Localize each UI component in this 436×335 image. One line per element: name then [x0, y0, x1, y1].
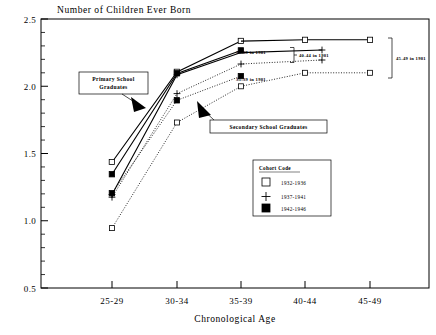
legend-label-1942-1946: 1942-1946: [281, 206, 306, 212]
annotation-45-49-in-1981: 45-49 in 1981: [396, 56, 426, 61]
series-secondary-1932-1936: [109, 70, 372, 230]
x-axis-title: Chronological Age: [194, 314, 275, 324]
y-tick-label-1-0: 1.0: [24, 216, 36, 226]
chart-title: Number of Children Ever Born: [57, 5, 191, 15]
x-tick-label-25-29: 25-29: [100, 296, 124, 306]
annotation-35-39-in-1981-upper: 35-39 in 1981: [236, 50, 266, 55]
chart-canvas: Number of Children Ever Born 2.5 2.0 1.5…: [0, 0, 436, 335]
secondary-callout: Secondary School Graduates: [197, 101, 327, 133]
legend-label-1932-1936: 1932-1936: [281, 180, 306, 186]
primary-arrow-icon: [131, 97, 146, 112]
legend-label-1937-1941: 1937-1941: [281, 194, 306, 200]
legend-item-1942-1946: 1942-1946: [262, 204, 306, 212]
legend: Cohort Code 1932-1936 1937-1941 1942-194…: [253, 160, 331, 216]
y-tick-label-2-5: 2.5: [24, 15, 36, 25]
primary-callout-line2: Graduates: [99, 84, 128, 90]
secondary-arrow-icon: [197, 101, 211, 118]
series-primary-1932-1936-extension: [241, 37, 373, 42]
x-axis: 25-29 30-34 35-39 40-44 45-49 Chronologi…: [100, 281, 382, 324]
legend-item-1932-1936: 1932-1936: [262, 178, 306, 186]
y-axis: 2.5 2.0 1.5 1.0 0.5: [24, 15, 48, 294]
x-tick-label-40-44: 40-44: [293, 296, 317, 306]
y-tick-label-0-5: 0.5: [24, 284, 36, 294]
legend-title: Cohort Code: [259, 165, 291, 171]
annotation-40-44-in-1981: 40-44 in 1981: [299, 53, 329, 58]
primary-callout-line1: Primary School: [92, 76, 134, 82]
y-tick-label-1-5: 1.5: [24, 149, 36, 159]
y-tick-label-2-0: 2.0: [24, 82, 36, 92]
annotation-35-39-in-1981-lower: 35-39 in 1981: [236, 77, 266, 82]
plot-frame: [41, 19, 429, 288]
primary-callout: Primary School Graduates: [79, 72, 148, 112]
x-tick-label-35-39: 35-39: [229, 296, 253, 306]
secondary-callout-line1: Secondary School Graduates: [229, 124, 308, 130]
x-tick-label-45-49: 45-49: [358, 296, 382, 306]
chart-root: Number of Children Ever Born 2.5 2.0 1.5…: [0, 0, 436, 335]
x-tick-label-30-34: 30-34: [165, 296, 189, 306]
series-primary-1942-1946: [109, 48, 243, 177]
